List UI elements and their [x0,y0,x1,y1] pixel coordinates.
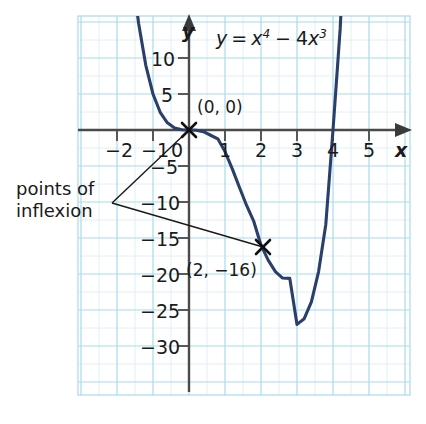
y-tick-label-minus25: −25 [140,302,180,321]
y-tick-label-10: 10 [151,50,175,69]
y-tick-label-5: 5 [161,86,173,105]
equation-term2-base: x [308,27,319,49]
x-tick-label-1: 1 [219,141,231,160]
x-tick-label-0: 0 [171,141,183,160]
x-axis-name: x [395,141,407,160]
inflexion-point-label: (2, −16) [186,262,257,279]
annotation-line-1: points of [16,178,94,200]
x-tick-label-minus2: −2 [105,141,133,160]
equation-term1-exponent: 4 [262,27,270,41]
y-axis-name: y [182,22,194,41]
equation-term2-coefficient: 4 [296,27,308,49]
plot-background [78,16,410,395]
graph-figure: y x y=x4−4x3 10 5 −5 −10 −15 −20 −25 −30… [0,0,426,424]
y-tick-label-minus20: −20 [140,266,180,285]
annotation-line-2: inflexion [16,200,94,222]
y-tick-label-minus10: −10 [140,194,180,213]
points-of-inflexion-annotation: points of inflexion [16,178,94,222]
equation-term1-base: x [251,27,262,49]
y-tick-label-minus15: −15 [140,230,180,249]
x-tick-label-3: 3 [291,141,303,160]
y-tick-label-minus30: −30 [140,338,180,357]
equation-minus: − [270,27,296,49]
origin-point-label: (0, 0) [197,99,243,116]
equation-lhs: y [216,27,227,49]
x-tick-label-minus1: −1 [141,141,169,160]
equation-label: y=x4−4x3 [216,28,327,48]
x-tick-label-4: 4 [327,141,339,160]
x-tick-label-5: 5 [363,141,375,160]
x-tick-label-2: 2 [255,141,267,160]
equation-term2-exponent: 3 [319,27,327,41]
equation-equals: = [227,27,251,49]
